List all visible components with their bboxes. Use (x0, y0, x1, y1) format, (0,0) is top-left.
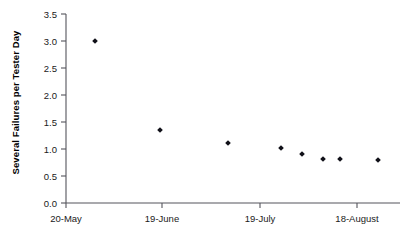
y-axis-tick-marks (61, 14, 66, 203)
y-axis-tick-label: 3.5 (27, 9, 57, 20)
y-axis-tick-label: 0.0 (27, 198, 57, 209)
y-axis-tick-label: 1.0 (27, 144, 57, 155)
x-axis-tick-marks (66, 203, 357, 208)
x-axis-tick-label: 18-August (317, 213, 397, 224)
y-axis-tick-label: 2.5 (27, 63, 57, 74)
y-axis-tick-label: 0.5 (27, 171, 57, 182)
scatter-chart: Several Failures per Tester Day 0.00.51.… (0, 0, 405, 243)
y-axis-tick-label: 2.0 (27, 90, 57, 101)
x-axis-tick-label: 20-May (26, 213, 106, 224)
chart-axes (0, 0, 405, 243)
x-axis-tick-label: 19-July (220, 213, 300, 224)
y-axis-tick-label: 3.0 (27, 36, 57, 47)
x-axis-tick-label: 19-June (122, 213, 202, 224)
y-axis-tick-label: 1.5 (27, 117, 57, 128)
